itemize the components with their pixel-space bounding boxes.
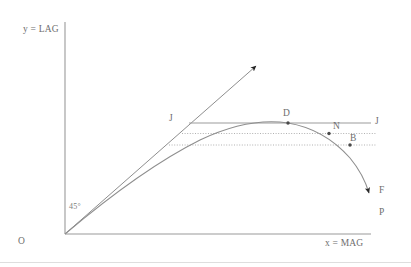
marker-n	[327, 132, 330, 135]
diagram-figure: y = LAG x = MAG O 45° J D J N B F P	[0, 0, 411, 267]
point-label-d: D	[283, 109, 290, 119]
point-label-b: B	[350, 134, 357, 144]
point-label-p: P	[379, 208, 384, 218]
marker-b	[348, 143, 351, 146]
point-label-f: F	[379, 186, 384, 196]
x-axis-label: x = MAG	[325, 239, 363, 249]
point-label-j-right: J	[375, 117, 379, 127]
point-label-n: N	[333, 122, 340, 132]
origin-label: O	[18, 237, 25, 247]
marker-d	[286, 121, 289, 124]
point-label-j-left: J	[169, 114, 173, 124]
diagonal-45-line	[65, 66, 256, 234]
response-curve	[65, 122, 369, 234]
y-axis-label: y = LAG	[23, 25, 59, 35]
angle-45-label: 45°	[69, 203, 81, 211]
